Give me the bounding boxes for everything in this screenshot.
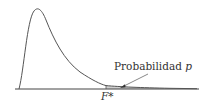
- critical-value-label: F*: [101, 90, 114, 102]
- pointer-arrow: [123, 74, 148, 87]
- probability-symbol: p: [185, 60, 192, 72]
- density-curve: [19, 9, 197, 89]
- probability-label: Probabilidad p: [114, 60, 192, 72]
